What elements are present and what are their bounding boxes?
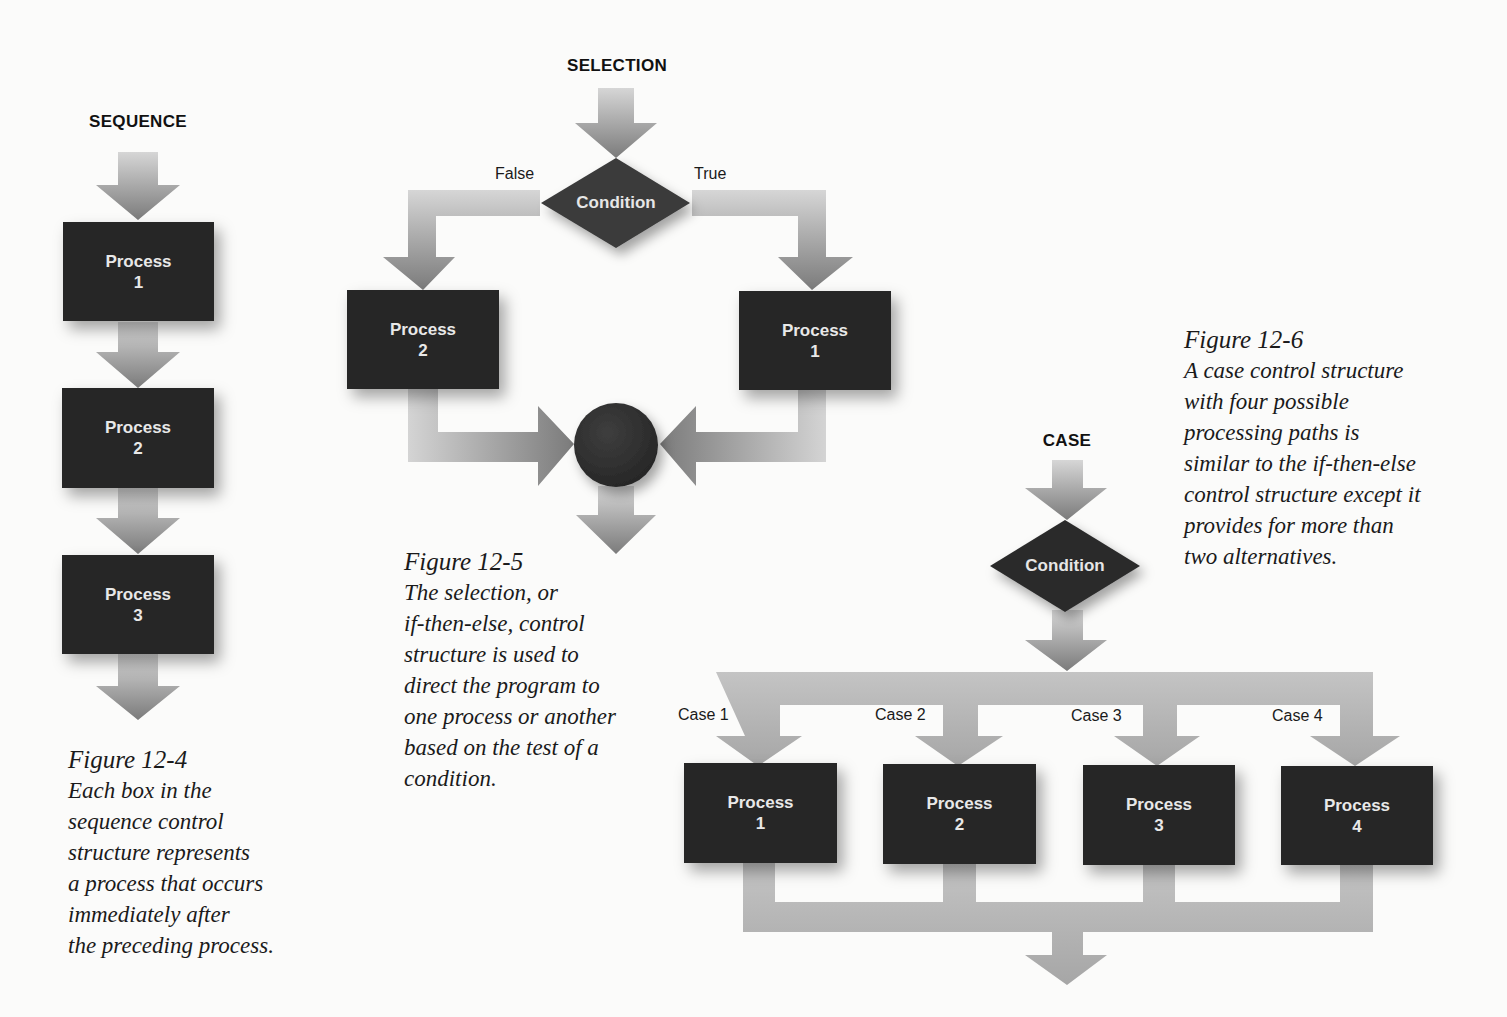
case-4-label: Case 4 — [1272, 707, 1323, 725]
selection-process-2: Process 2 — [347, 290, 499, 389]
caption-line: a process that occurs — [68, 868, 328, 899]
caption-line: provides for more than — [1184, 510, 1484, 541]
caption-line: two alternatives. — [1184, 541, 1484, 572]
sequence-process-2: Process 2 — [62, 388, 214, 488]
figure-12-5-caption: Figure 12-5 The selection, or if-then-el… — [404, 546, 664, 794]
case-1-label: Case 1 — [678, 706, 729, 724]
caption-line: immediately after — [68, 899, 328, 930]
caption-line: direct the program to — [404, 670, 664, 701]
selection-heading: SELECTION — [567, 56, 667, 76]
caption-line: control structure except it — [1184, 479, 1484, 510]
selection-condition-label: Condition — [576, 193, 655, 213]
caption-line: the preceding process. — [68, 930, 328, 961]
figure-12-4-caption: Figure 12-4 Each box in the sequence con… — [68, 744, 328, 961]
process-number: 3 — [133, 605, 142, 626]
caption-line: Each box in the — [68, 775, 328, 806]
selection-join-circle — [574, 403, 658, 487]
process-label: Process — [1324, 795, 1390, 816]
caption-line: similar to the if-then-else — [1184, 448, 1484, 479]
case-condition-label: Condition — [1025, 556, 1104, 576]
process-label: Process — [105, 584, 171, 605]
caption-line: The selection, or — [404, 577, 664, 608]
case-3-label: Case 3 — [1071, 707, 1122, 725]
sequence-process-3: Process 3 — [62, 555, 214, 654]
case-process-3: Process 3 — [1083, 765, 1235, 865]
sequence-process-1: Process 1 — [63, 222, 214, 321]
caption-line: with four possible — [1184, 386, 1484, 417]
caption-line: based on the test of a — [404, 732, 664, 763]
process-number: 1 — [810, 341, 819, 362]
process-number: 2 — [418, 340, 427, 361]
case-process-4: Process 4 — [1281, 766, 1433, 865]
caption-title: Figure 12-5 — [404, 546, 664, 577]
caption-title: Figure 12-4 — [68, 744, 328, 775]
process-label: Process — [390, 319, 456, 340]
false-label: False — [495, 165, 534, 183]
process-label: Process — [105, 251, 171, 272]
selection-process-1: Process 1 — [739, 291, 891, 390]
process-label: Process — [926, 793, 992, 814]
process-label: Process — [105, 417, 171, 438]
case-process-1: Process 1 — [684, 763, 837, 863]
caption-line: A case control structure — [1184, 355, 1484, 386]
caption-line: one process or another — [404, 701, 664, 732]
process-number: 2 — [955, 814, 964, 835]
caption-line: condition. — [404, 763, 664, 794]
figure-12-6-caption: Figure 12-6 A case control structure wit… — [1184, 324, 1484, 572]
process-number: 1 — [756, 813, 765, 834]
case-2-label: Case 2 — [875, 706, 926, 724]
process-label: Process — [727, 792, 793, 813]
caption-line: structure represents — [68, 837, 328, 868]
case-process-2: Process 2 — [883, 764, 1036, 864]
true-label: True — [694, 165, 726, 183]
process-number: 3 — [1154, 815, 1163, 836]
caption-line: structure is used to — [404, 639, 664, 670]
process-label: Process — [782, 320, 848, 341]
process-number: 2 — [133, 438, 142, 459]
caption-line: processing paths is — [1184, 417, 1484, 448]
process-number: 1 — [134, 272, 143, 293]
caption-title: Figure 12-6 — [1184, 324, 1484, 355]
caption-line: if-then-else, control — [404, 608, 664, 639]
process-label: Process — [1126, 794, 1192, 815]
sequence-heading: SEQUENCE — [89, 112, 187, 132]
caption-line: sequence control — [68, 806, 328, 837]
process-number: 4 — [1352, 816, 1361, 837]
case-heading: CASE — [1043, 431, 1091, 451]
